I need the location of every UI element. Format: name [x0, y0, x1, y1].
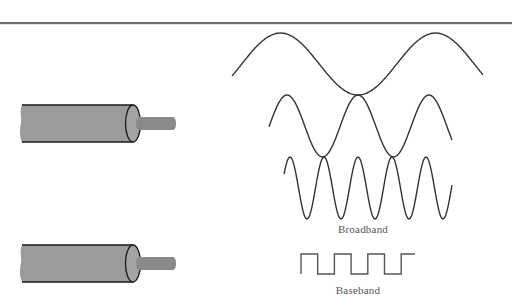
broadband-label: Broadband [338, 223, 388, 235]
square-wave-line [301, 254, 415, 274]
transmission-diagram [0, 0, 512, 308]
center-conductor [136, 117, 176, 130]
high-frequency-carrier-wave [284, 157, 452, 219]
mid-frequency-carrier-wave [269, 95, 452, 157]
cable-body [20, 245, 133, 282]
cable-body [20, 105, 133, 142]
top-rule [0, 22, 512, 24]
baseband-square-wave [301, 254, 415, 274]
broadband-waves [232, 33, 483, 219]
low-frequency-carrier-wave [232, 33, 483, 95]
center-conductor [136, 257, 176, 270]
baseband-label: Baseband [336, 284, 380, 296]
baseband-cable-icon [20, 245, 176, 282]
broadband-cable-icon [20, 105, 176, 142]
